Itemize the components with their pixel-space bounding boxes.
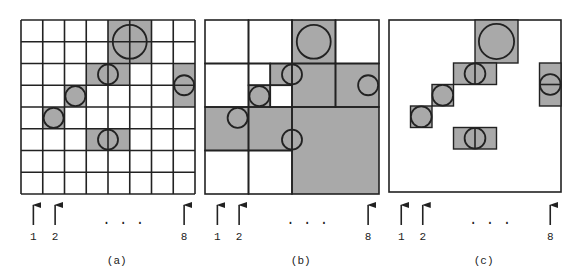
quadtree-block-empty [270, 85, 292, 107]
quadtree-block-empty [336, 20, 380, 64]
panel-caption-a: (a) [107, 255, 127, 267]
quadtree-block-empty [249, 151, 293, 195]
quadtree-block-empty [205, 64, 249, 108]
arrow-label-1: 1 [398, 231, 405, 243]
quadtree-block-occupied [292, 107, 379, 194]
arrow-label-8: 8 [181, 231, 188, 243]
object-circle [411, 106, 432, 127]
object-circle [44, 108, 64, 128]
panel-caption-c: (c) [474, 255, 494, 267]
ellipsis: . . . [469, 212, 511, 228]
arrow-label-2: 2 [419, 231, 426, 243]
arrow-label-1: 1 [214, 231, 221, 243]
ellipsis: . . . [102, 212, 144, 228]
panel-c-bounding-boxes [389, 20, 561, 225]
figure-stage: 1 2 8 . . . (a) 1 2 8 . . . (b) 1 2 8 . … [0, 0, 581, 280]
object-circle [249, 86, 269, 106]
arrow-label-2: 2 [236, 231, 243, 243]
ellipsis: . . . [286, 212, 328, 228]
panel-b-quadtree [205, 20, 379, 225]
arrow-label-2: 2 [52, 231, 59, 243]
quadtree-block-empty [205, 20, 249, 64]
quadtree-block-empty [249, 20, 293, 64]
arrow-label-1: 1 [30, 231, 37, 243]
object-circle [297, 25, 331, 59]
object-circle [228, 108, 248, 128]
object-circle [432, 85, 453, 106]
panel-a-uniform-grid [21, 20, 195, 225]
arrow-label-8: 8 [547, 231, 554, 243]
diagram-svg [0, 0, 581, 280]
object-circle [65, 86, 85, 106]
object-circle [358, 75, 378, 95]
panel-caption-b: (b) [291, 255, 311, 267]
quadtree-block-empty [249, 64, 271, 86]
object-circle [479, 24, 514, 59]
arrow-label-8: 8 [365, 231, 372, 243]
quadtree-block-empty [205, 151, 249, 195]
